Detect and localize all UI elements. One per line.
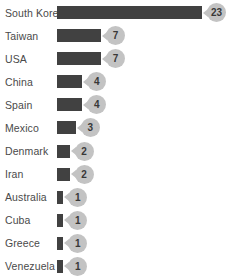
bar <box>57 145 70 158</box>
value-label: 1 <box>75 238 81 249</box>
category-label: Mexico <box>0 122 57 134</box>
category-label: Iran <box>0 168 57 180</box>
bar <box>57 6 202 19</box>
chart-row: Venezuela 1 <box>0 255 233 278</box>
bar <box>57 260 63 273</box>
chart-row: Denmark 2 <box>0 139 233 162</box>
chart-row: Iran 2 <box>0 163 233 186</box>
chart-row: Spain 4 <box>0 93 233 116</box>
value-label: 1 <box>75 192 81 203</box>
value-label: 7 <box>113 30 119 41</box>
category-label: Australia <box>0 191 57 203</box>
bar <box>57 75 82 88</box>
chart-row: Mexico 3 <box>0 116 233 139</box>
bar <box>57 29 101 42</box>
value-badge: 4 <box>87 95 106 114</box>
value-badge: 1 <box>68 234 87 253</box>
category-label: Greece <box>0 237 57 249</box>
bar <box>57 168 70 181</box>
category-label: Venezuela <box>0 260 57 272</box>
category-label: Taiwan <box>0 30 57 42</box>
bar <box>57 237 63 250</box>
chart-row: USA 7 <box>0 47 233 70</box>
bar <box>57 52 101 65</box>
bar-chart: South Korea 23 Taiwan 7 USA 7 China 4 Sp… <box>0 0 233 279</box>
value-badge: 1 <box>68 188 87 207</box>
bar <box>57 214 63 227</box>
category-label: Spain <box>0 99 57 111</box>
value-badge: 7 <box>106 26 125 45</box>
value-label: 1 <box>75 261 81 272</box>
value-badge: 4 <box>87 72 106 91</box>
value-badge: 2 <box>75 165 94 184</box>
category-label: USA <box>0 53 57 65</box>
chart-row: Australia 1 <box>0 186 233 209</box>
category-label: South Korea <box>0 7 57 19</box>
bar <box>57 98 82 111</box>
chart-row: Greece 1 <box>0 232 233 255</box>
value-label: 23 <box>211 7 222 18</box>
chart-row: Cuba 1 <box>0 209 233 232</box>
category-label: Cuba <box>0 214 57 226</box>
chart-row: South Korea 23 <box>0 1 233 24</box>
category-label: Denmark <box>0 145 57 157</box>
value-badge: 3 <box>81 118 100 137</box>
chart-row: Taiwan 7 <box>0 24 233 47</box>
value-label: 2 <box>81 146 87 157</box>
value-badge: 7 <box>106 49 125 68</box>
value-badge: 1 <box>68 257 87 276</box>
value-label: 7 <box>113 53 119 64</box>
value-badge: 1 <box>68 211 87 230</box>
bar <box>57 191 63 204</box>
value-label: 3 <box>88 122 94 133</box>
value-label: 1 <box>75 215 81 226</box>
value-label: 2 <box>81 169 87 180</box>
value-badge: 23 <box>207 3 226 22</box>
chart-row: China 4 <box>0 70 233 93</box>
value-label: 4 <box>94 76 100 87</box>
category-label: China <box>0 76 57 88</box>
bar <box>57 121 76 134</box>
value-badge: 2 <box>75 142 94 161</box>
value-label: 4 <box>94 99 100 110</box>
